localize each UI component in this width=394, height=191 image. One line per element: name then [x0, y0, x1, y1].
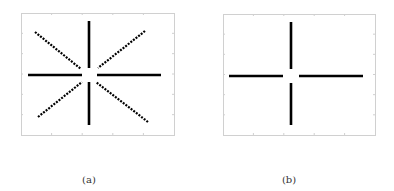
- panel-b: [223, 14, 376, 136]
- figure-canvas: [0, 0, 394, 191]
- caption-b: (b): [269, 174, 309, 185]
- panel-a: [21, 13, 175, 136]
- caption-a: (a): [69, 174, 109, 185]
